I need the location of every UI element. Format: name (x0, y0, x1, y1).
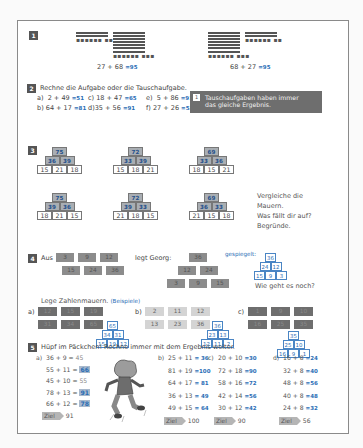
pyramid-base-cell: 18 (219, 211, 234, 220)
pyramid-base-cell: 21 (113, 211, 128, 220)
pyramid-base-cell: 21 (219, 165, 234, 174)
hop-answer: =56 (306, 380, 318, 386)
pyramid-mid-cell: 13 (218, 330, 229, 339)
hop-answer: = 49 (194, 393, 208, 399)
hop-answer: 55 (79, 377, 87, 384)
exercise-2-number: 2 (27, 84, 36, 93)
pyramid-top-cell: 75 (52, 147, 67, 156)
exercise-3-number: 3 (28, 146, 37, 155)
pyramid-mid-cell: 25 (283, 340, 294, 349)
hop-answer: 91 (79, 389, 89, 396)
pyramid-mid-cell: 23 (207, 330, 218, 339)
tip-line-2: das gleiche Ergebnis. (205, 100, 318, 109)
number-block: 12 (38, 307, 57, 316)
exercise-3-question: Vergleiche die Mauern. Was fällt dir auf… (257, 191, 311, 231)
georg-block: 9 (189, 279, 207, 288)
pyramid-top-cell: 72 (128, 193, 143, 202)
exercise-1-number: 1 (29, 31, 38, 40)
hop-row: 72 + 18 =90 (208, 365, 257, 378)
number-block: 35 (294, 320, 313, 329)
hop-row: c)20 + 10 =30 (208, 352, 257, 365)
pyramid-mid-cell: 31 (113, 330, 124, 339)
exercise-2-task-f: f) 27 + 26 =53 (146, 104, 193, 112)
set-label: b) (135, 308, 142, 316)
hop-column-c: c)20 + 10 =3072 + 18 =9058 + 16 =7242 + … (208, 352, 257, 426)
pyramid-mid-cell: 24 (260, 262, 271, 271)
pyramid-top-cell: 69 (204, 193, 219, 202)
tip-number: 1 (193, 94, 200, 101)
georg-block: 3 (167, 279, 185, 288)
ziel-row: Ziel91 (36, 410, 90, 422)
pyramid-base-cell: 15 (113, 165, 128, 174)
pyramid-mid-cell: 33 (212, 202, 227, 211)
pyramid-base-cell: 15 (204, 165, 219, 174)
number-block: 9 (271, 307, 290, 316)
pyramid-base-cell: 18 (67, 165, 82, 174)
number-block: 11 (168, 307, 187, 316)
pyramid-base-cell: 18 (37, 211, 52, 220)
ziel-row: Ziel100 (158, 415, 211, 427)
hop-column-b: b)25 + 11 = 3681 + 19 =10064 + 17 = 8136… (158, 352, 211, 426)
exercise-2-task-a: a) 2 + 49 =51 (37, 94, 84, 102)
hop-answer: 66 (79, 366, 89, 373)
exercise-2-task-e: e) 5 + 86 =91 (146, 94, 193, 102)
pyramid-top-cell: 69 (204, 147, 219, 156)
ziel-arrow-label: Ziel (42, 412, 60, 420)
hop-row: 64 + 17 = 81 (158, 377, 211, 390)
hop-answer: =30 (244, 355, 256, 361)
ziel-value: 100 (188, 417, 200, 424)
ziel-value: 90 (238, 417, 246, 424)
georg-block: 12 (178, 266, 196, 275)
pyramid-mid-cell: 36 (197, 202, 212, 211)
pyramid-mid-cell: 39 (121, 202, 136, 211)
pyramid-mid-cell: 36 (60, 202, 75, 211)
ziel-arrow-label: Ziel (279, 417, 297, 425)
hop-answer: =42 (244, 405, 256, 411)
hop-row: 58 + 16 =72 (208, 377, 257, 390)
aus-block: 3 (56, 253, 74, 262)
pyramid-base-cell: 21 (52, 165, 67, 174)
pyramid-base-cell: 18 (189, 165, 204, 174)
hop-answer: =32 (306, 405, 318, 411)
hop-column-d: d)16 + 8 =2432 + 8 =4048 + 8 =5640 + 8 =… (273, 352, 318, 426)
aus-block: 24 (84, 266, 102, 275)
pyramid-mid-cell: 39 (45, 202, 60, 211)
hop-row: 55 + 11 = 66 (36, 364, 90, 376)
ziel-arrow-label: Ziel (214, 417, 232, 425)
georg-block-top: 36 (189, 253, 207, 262)
set-label: c) (238, 308, 244, 316)
aus-label: Aus (41, 254, 53, 262)
exercise-2-task-b: b) 64 + 17 =81 (37, 104, 86, 112)
pyramid-mid-cell: 33 (197, 156, 212, 165)
ziel-value: 56 (303, 417, 311, 424)
hop-row: d)16 + 8 =24 (273, 352, 318, 365)
pyramid-base-cell: 15 (67, 211, 82, 220)
exercise-1-right-equation: 68 + 27 =95 (230, 63, 270, 71)
exercise-2-task-d: d)35 + 56 =91 (88, 104, 135, 112)
aus-block: 36 (106, 266, 124, 275)
pyramid-mid-cell: 36 (45, 156, 60, 165)
pyramid-base-cell: 18 (128, 165, 143, 174)
pyramid-base-cell: 21 (189, 211, 204, 220)
pyramid-top-cell: 65 (107, 321, 118, 330)
pyramid-mid-cell: 33 (121, 156, 136, 165)
number-block: 16 (248, 320, 267, 329)
hop-row: 81 + 19 =100 (158, 365, 211, 378)
pyramid-top-cell: 36 (265, 253, 276, 262)
hop-answer: = 36 (194, 355, 208, 361)
pyramid-top-cell: 72 (128, 147, 143, 156)
number-block: 65 (84, 320, 103, 329)
exercise-5-instruction: Hüpf im Päckchen! Rechne immer mit dem E… (41, 343, 235, 351)
hop-row: 42 + 14 =56 (208, 390, 257, 403)
hop-row: 49 + 15 = 64 (158, 402, 211, 415)
hop-row: 36 + 13 = 49 (158, 390, 211, 403)
ziel-row: Ziel56 (273, 415, 318, 427)
pyramid-base-cell: 15 (37, 165, 52, 174)
exercise-2-task-c: c) 18 + 47 =65 (88, 94, 137, 102)
hop-answer: = 64 (194, 405, 208, 411)
hop-answer: =72 (244, 380, 256, 386)
pyramid-top-cell: 36 (212, 321, 223, 330)
pyramid-mid-cell: 12 (271, 262, 282, 271)
pyramid-base-cell: 21 (143, 165, 158, 174)
number-block: 2 (145, 307, 164, 316)
